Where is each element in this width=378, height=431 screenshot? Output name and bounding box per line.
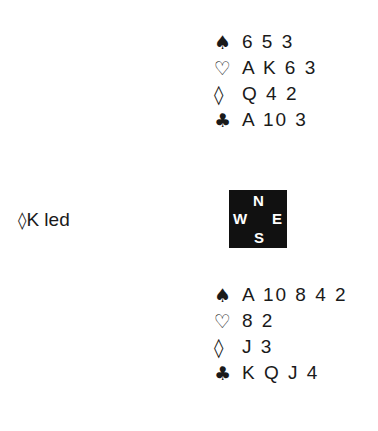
- spade-icon: ♠: [214, 282, 242, 308]
- north-hearts-cards: A K 6 3: [242, 55, 317, 81]
- south-diamonds-cards: J 3: [242, 334, 273, 360]
- club-icon: ♣: [214, 107, 242, 133]
- north-hand: ♠ 6 5 3 ♡ A K 6 3 ◊ Q 4 2 ♣ A 10 3: [214, 29, 317, 133]
- north-hearts-row: ♡ A K 6 3: [214, 55, 317, 81]
- heart-icon: ♡: [214, 55, 242, 81]
- spade-icon: ♠: [214, 29, 242, 55]
- diamond-icon: ◊: [214, 81, 242, 107]
- compass-north: N: [253, 193, 264, 208]
- north-diamonds-row: ◊ Q 4 2: [214, 81, 317, 107]
- south-spades-row: ♠ A 10 8 4 2: [214, 282, 348, 308]
- heart-icon: ♡: [214, 308, 242, 334]
- opening-lead: ◊K led: [18, 208, 70, 232]
- south-hand: ♠ A 10 8 4 2 ♡ 8 2 ◊ J 3 ♣ K Q J 4: [214, 282, 348, 386]
- north-diamonds-cards: Q 4 2: [242, 81, 298, 107]
- north-spades-cards: 6 5 3: [242, 29, 294, 55]
- south-hearts-cards: 8 2: [242, 308, 274, 334]
- south-clubs-cards: K Q J 4: [242, 360, 319, 386]
- north-clubs-row: ♣ A 10 3: [214, 107, 317, 133]
- diamond-icon: ◊: [214, 334, 242, 360]
- north-spades-row: ♠ 6 5 3: [214, 29, 317, 55]
- opening-lead-text: K led: [26, 209, 69, 230]
- south-diamonds-row: ◊ J 3: [214, 334, 348, 360]
- compass-south: S: [254, 230, 264, 245]
- compass-east: E: [272, 211, 282, 226]
- compass-box: N W E S: [229, 190, 287, 248]
- north-clubs-cards: A 10 3: [242, 107, 308, 133]
- club-icon: ♣: [214, 360, 242, 386]
- south-hearts-row: ♡ 8 2: [214, 308, 348, 334]
- south-spades-cards: A 10 8 4 2: [242, 282, 348, 308]
- compass-west: W: [233, 211, 247, 226]
- south-clubs-row: ♣ K Q J 4: [214, 360, 348, 386]
